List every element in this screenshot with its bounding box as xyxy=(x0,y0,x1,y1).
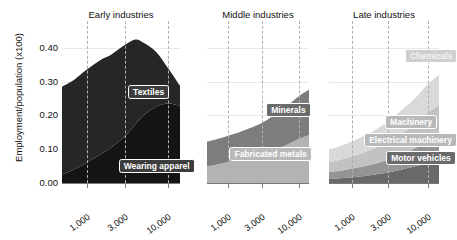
y-tick-label: 0.20 xyxy=(12,110,58,120)
x-tick-label: 10,000 xyxy=(393,212,433,240)
series-label-chemicals: Chemicals xyxy=(405,49,457,63)
x-tick-label: 3,000 xyxy=(90,212,130,240)
y-tick-label: 0.40 xyxy=(12,43,58,53)
panel-middle: Middle industries1,0003,00010,000Fabrica… xyxy=(207,31,309,183)
panel-title-middle: Middle industries xyxy=(207,9,309,20)
x-tick-label: 3,000 xyxy=(227,212,267,240)
x-tick-label: 1,000 xyxy=(317,212,357,240)
series-label-motor-vehicles: Motor vehicles xyxy=(386,151,456,165)
x-tick-label: 10,000 xyxy=(263,212,303,240)
x-tick-label: 3,000 xyxy=(353,212,393,240)
vertical-gridline xyxy=(87,21,88,183)
y-tick-label: 0.10 xyxy=(12,144,58,154)
y-tick-label: 0.00 xyxy=(12,178,58,188)
series-label-minerals: Minerals xyxy=(266,103,311,117)
series-label-fabricated-metals: Fabricated metals xyxy=(229,147,311,161)
x-axis-line xyxy=(329,183,439,184)
panel-early: Early industries1,0003,00010,000Wearing … xyxy=(62,31,180,183)
series-label-wearing-apparel: Wearing apparel xyxy=(119,159,195,173)
series-label-electrical-machinery: Electrical machinery xyxy=(364,133,457,147)
panel-title-early: Early industries xyxy=(62,9,180,20)
y-axis-ticks: 0.000.100.200.300.40 xyxy=(8,0,58,224)
panel-title-late: Late industries xyxy=(329,9,439,20)
panel-late: Late industries1,0003,00010,000Motor veh… xyxy=(329,31,439,183)
series-label-machinery: Machinery xyxy=(385,115,437,129)
x-tick-label: 10,000 xyxy=(133,212,173,240)
x-axis-line xyxy=(207,183,309,184)
y-tick-label: 0.30 xyxy=(12,77,58,87)
series-label-textiles: Textiles xyxy=(128,85,169,99)
x-axis-line xyxy=(62,183,180,184)
vertical-gridline xyxy=(352,21,353,183)
